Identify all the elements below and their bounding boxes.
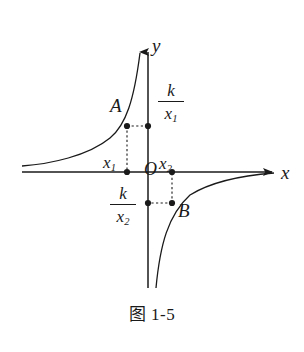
x2-tick-subscript: 2 bbox=[167, 163, 172, 174]
x1-tick-base: x bbox=[103, 153, 111, 172]
fraction-k-over-x1-denominator-subscript: 1 bbox=[172, 113, 177, 124]
point-b-label: B bbox=[178, 201, 190, 220]
point-a-on-x-axis bbox=[124, 169, 130, 175]
point-a-label: A bbox=[110, 96, 122, 115]
hyperbola-branch-lower-right bbox=[156, 173, 274, 288]
origin-label: O bbox=[144, 160, 157, 178]
y-axis-label: y bbox=[152, 36, 160, 55]
figure-caption: 图 1-5 bbox=[0, 300, 304, 325]
fraction-k-over-x1-numerator: k bbox=[158, 82, 184, 101]
fraction-k-over-x2-denominator-base: x bbox=[117, 207, 125, 226]
hyperbola-figure: y x A B O x1 x2 k x1 k x2 图 1-5 bbox=[0, 0, 304, 352]
fraction-k-over-x1-denominator: x1 bbox=[158, 102, 184, 124]
fraction-k-over-x1-denominator-base: x bbox=[165, 104, 173, 123]
point-a bbox=[124, 123, 130, 129]
fraction-k-over-x1: k x1 bbox=[158, 82, 184, 124]
x2-tick-label: x2 bbox=[159, 155, 172, 174]
fraction-k-over-x2-denominator: x2 bbox=[110, 205, 136, 227]
fraction-k-over-x2-numerator: k bbox=[110, 185, 136, 204]
hyperbola-branch-upper-left bbox=[22, 53, 140, 166]
x1-tick-label: x1 bbox=[103, 154, 116, 173]
x1-tick-subscript: 1 bbox=[111, 162, 116, 173]
point-b-on-y-axis bbox=[145, 200, 151, 206]
fraction-k-over-x2-denominator-subscript: 2 bbox=[124, 216, 129, 227]
x-axis-label: x bbox=[281, 163, 289, 182]
point-a-on-y-axis bbox=[145, 123, 151, 129]
fraction-k-over-x2: k x2 bbox=[110, 185, 136, 227]
point-b bbox=[169, 200, 175, 206]
x2-tick-base: x bbox=[159, 154, 167, 173]
